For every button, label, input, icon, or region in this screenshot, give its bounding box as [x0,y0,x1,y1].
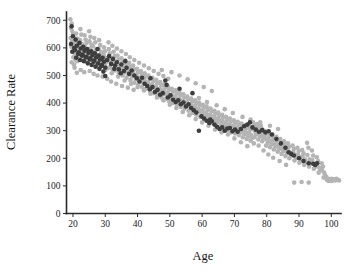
data-point [88,35,93,40]
data-point [135,85,140,90]
data-point [239,140,244,145]
x-axis-ticks: 2030405060708090100 [68,214,338,229]
data-point [305,141,310,146]
data-point [82,70,87,75]
data-point [180,110,185,115]
data-point [240,115,245,120]
y-tick-label: 100 [46,181,61,191]
data-point [119,56,124,61]
y-axis-ticks: 0100200300400500600700 [46,16,66,219]
data-point [266,152,271,157]
data-point [297,156,302,161]
data-point [124,52,129,57]
data-point [128,55,133,60]
data-point [222,107,227,112]
data-point [274,137,279,142]
data-point [226,132,231,137]
data-point [119,62,124,67]
y-tick-label: 400 [46,98,61,108]
data-point [128,78,133,83]
data-point [292,153,297,158]
data-point [277,159,282,164]
data-point [115,53,120,58]
data-point [120,84,125,89]
data-point [310,148,315,153]
data-point [292,158,297,163]
x-axis-title: Age [193,249,214,263]
scatter-plot-figure: 0100200300400500600700 20304050607080901… [0,0,356,274]
data-point [107,47,112,52]
data-point [214,103,219,108]
data-point [97,67,102,72]
data-point [201,85,206,90]
data-point [261,148,266,153]
data-point [92,58,97,63]
data-point [140,75,145,80]
data-point [111,49,116,54]
data-point [268,145,273,150]
data-point [297,160,302,165]
data-point [169,70,174,75]
data-point [151,69,156,74]
data-point [111,57,116,62]
data-point [76,50,81,55]
x-tick-label: 80 [262,219,272,229]
data-point [137,79,142,84]
data-point [301,159,306,164]
data-point [284,163,289,168]
data-point [142,63,147,68]
data-point [168,102,173,107]
y-tick-label: 500 [46,71,61,81]
data-point [78,27,83,32]
data-point [260,139,265,144]
data-point [283,146,288,151]
data-point [126,85,131,90]
data-point [181,100,186,105]
data-point [87,69,92,74]
data-point [68,17,73,22]
data-point [77,41,82,46]
data-point [268,123,273,128]
data-point [142,88,147,93]
data-point [69,42,74,47]
data-point [87,29,92,34]
data-point [73,48,78,53]
data-point [279,152,284,157]
data-point [156,72,161,77]
data-point [266,129,271,134]
data-point [161,74,166,79]
data-point [82,59,87,64]
data-point [279,141,284,146]
data-point [159,68,164,73]
data-point [305,153,310,158]
data-point [150,85,155,90]
data-point [107,54,112,59]
data-point [302,163,307,168]
plot-canvas: 0100200300400500600700 20304050607080901… [0,0,356,274]
data-point [112,67,117,72]
data-point [95,47,100,52]
data-point [205,100,210,105]
y-axis-title: Clearance Rate [4,74,18,150]
data-point [118,71,123,76]
data-point [78,58,83,63]
data-point [283,154,288,159]
x-tick-label: 40 [133,219,143,229]
data-point [148,76,153,81]
x-tick-label: 70 [230,219,240,229]
data-point [129,81,134,86]
data-point [337,178,342,183]
data-point [193,81,198,86]
data-point [109,79,114,84]
data-point [248,120,253,125]
data-point [190,91,195,96]
data-point [174,106,179,111]
data-point [132,58,137,63]
data-point [208,117,213,122]
x-tick-label: 100 [324,219,339,229]
data-point [164,83,169,88]
data-point [177,73,182,78]
data-point [123,59,128,64]
data-point [102,45,107,50]
data-point [161,98,166,103]
